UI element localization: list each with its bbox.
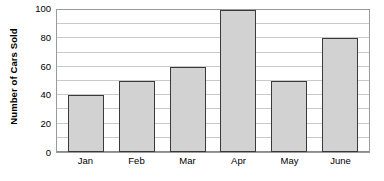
x-axis-tick-label: Feb: [119, 155, 155, 166]
bar-chart: Number of Cars Sold 020406080100 JanFebM…: [0, 0, 384, 181]
y-axis-tick-label: 60: [40, 62, 51, 72]
x-axis-tick-label: June: [323, 155, 359, 166]
y-axis-tick-labels: 020406080100: [26, 9, 54, 153]
x-axis-tick-label: May: [272, 155, 308, 166]
x-axis-tick-label: Mar: [170, 155, 206, 166]
y-axis-tick-label: 0: [46, 148, 51, 158]
bar-may: [271, 81, 307, 152]
x-axis-tick-labels: JanFebMarAprMayJune: [56, 155, 370, 175]
y-axis-tick-label: 80: [40, 33, 51, 43]
bar-mar: [170, 67, 206, 152]
bar-june: [322, 38, 358, 152]
x-axis-tick-label: Apr: [221, 155, 257, 166]
y-axis-title-label: Number of Cars Sold: [8, 28, 19, 124]
bar-jan: [68, 95, 104, 152]
y-axis-tick-label: 100: [35, 4, 51, 14]
bars-group: [57, 10, 369, 152]
y-axis-tick-label: 20: [40, 119, 51, 129]
y-axis-title: Number of Cars Sold: [0, 0, 26, 152]
bar-feb: [119, 81, 155, 152]
bar-apr: [220, 10, 256, 152]
x-axis-tick-label: Jan: [68, 155, 104, 166]
y-axis-tick-label: 40: [40, 91, 51, 101]
plot-area: [56, 9, 370, 153]
